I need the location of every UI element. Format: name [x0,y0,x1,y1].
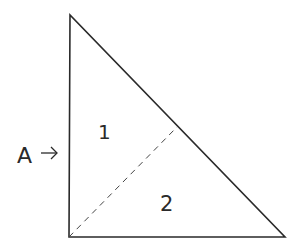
pointer-a-label: A [17,143,32,168]
arrow-right-icon [41,147,57,159]
dashed-divider-line [69,127,177,237]
region-2-label: 2 [160,192,173,216]
triangle-diagram: 1 2 A [0,0,299,249]
region-1-label: 1 [98,120,111,144]
